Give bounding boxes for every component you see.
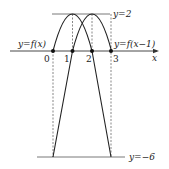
label-y-minus-6: y=−6 [128, 152, 155, 162]
point-3 [109, 49, 113, 53]
point-0 [51, 49, 55, 53]
label-y-2: y=2 [112, 9, 132, 19]
tick-label-0: 0 [44, 54, 50, 64]
tick-label-1: 1 [64, 54, 70, 64]
tick-label-2: 2 [86, 54, 92, 64]
function-graph: y=2 y=−6 x 0 1 2 3 y=f(x) y=f(x−1) [0, 0, 169, 169]
label-f-x: y=f(x) [17, 39, 47, 49]
point-1 [71, 49, 75, 53]
curve-f-x-minus-1 [53, 14, 112, 157]
point-2 [90, 49, 94, 53]
curve-f-x [53, 14, 111, 157]
label-f-x-minus-1: y=f(x−1) [113, 39, 156, 49]
tick-label-3: 3 [113, 54, 119, 64]
x-axis-label: x [152, 53, 157, 63]
